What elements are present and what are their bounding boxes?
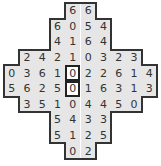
grid-cell[interactable]: 4 (96, 97, 111, 113)
grid-cell[interactable]: 1 (126, 81, 141, 97)
grid-outline (34, 49, 51, 51)
grid-cell[interactable]: 5 (50, 112, 65, 128)
grid-cell[interactable]: 5 (4, 81, 19, 97)
grid-cell[interactable]: 1 (126, 65, 141, 81)
grid-cell[interactable]: 3 (126, 50, 141, 66)
grid-cell[interactable]: 1 (50, 65, 65, 81)
grid-cell[interactable]: 0 (65, 19, 80, 35)
grid-cell[interactable]: 2 (19, 50, 34, 66)
grid-outline (49, 127, 51, 145)
grid-cell[interactable]: 3 (19, 97, 34, 113)
grid-cell[interactable]: 6 (81, 34, 96, 50)
grid-cell[interactable]: 4 (50, 34, 65, 50)
grid-cell[interactable]: 2 (111, 50, 126, 66)
grid-outline (64, 142, 66, 160)
grid-cell[interactable]: 6 (111, 65, 126, 81)
grid-outline (3, 80, 5, 98)
domino-puzzle-board: 6660544164242103230361022614562501631335… (0, 0, 161, 166)
grid-cell[interactable]: 1 (65, 50, 80, 66)
grid-outline (156, 80, 158, 98)
grid-cell[interactable]: 2 (50, 50, 65, 66)
grid-outline (18, 96, 20, 114)
grid-cell[interactable]: 3 (96, 50, 111, 66)
grid-cell[interactable]: 5 (96, 128, 111, 144)
grid-cell[interactable]: 4 (142, 65, 157, 81)
grid-cell[interactable]: 0 (81, 50, 96, 66)
grid-cell[interactable]: 0 (65, 97, 80, 113)
grid-cell[interactable]: 5 (50, 81, 65, 97)
grid-cell[interactable]: 6 (96, 81, 111, 97)
grid-cell[interactable]: 4 (96, 34, 111, 50)
grid-cell[interactable]: 6 (81, 3, 96, 19)
grid-cell[interactable]: 5 (111, 97, 126, 113)
grid-cell[interactable]: 3 (111, 81, 126, 97)
grid-cell[interactable]: 6 (65, 3, 80, 19)
grid-cell[interactable]: 5 (50, 128, 65, 144)
grid-outline (95, 142, 97, 160)
grid-outline (49, 18, 66, 20)
grid-cell[interactable]: 4 (81, 97, 96, 113)
grid-cell[interactable]: 5 (81, 19, 96, 35)
grid-cell[interactable]: 1 (65, 128, 80, 144)
grid-cell[interactable]: 6 (50, 19, 65, 35)
grid-cell[interactable]: 3 (142, 81, 157, 97)
grid-cell[interactable]: 6 (19, 81, 34, 97)
grid-cell[interactable]: 0 (4, 65, 19, 81)
highlighted-cell[interactable]: 0 (65, 81, 80, 97)
grid-cell[interactable]: 1 (50, 97, 65, 113)
grid-cell[interactable]: 1 (65, 34, 80, 50)
grid-cell[interactable]: 2 (81, 65, 96, 81)
grid-cell[interactable]: 4 (65, 112, 80, 128)
grid-cell[interactable]: 3 (96, 112, 111, 128)
grid-cell[interactable]: 4 (35, 50, 50, 66)
grid-outline (141, 96, 143, 114)
grid-cell[interactable]: 3 (81, 112, 96, 128)
grid-cell[interactable]: 6 (35, 65, 50, 81)
grid-cell[interactable]: 4 (96, 19, 111, 35)
highlighted-cell[interactable]: 0 (65, 65, 80, 81)
grid-outline (3, 64, 20, 66)
grid-cell[interactable]: 2 (96, 65, 111, 81)
grid-cell[interactable]: 2 (81, 143, 96, 159)
grid-outline (110, 127, 112, 145)
grid-cell[interactable]: 2 (81, 128, 96, 144)
grid-cell[interactable]: 0 (126, 97, 141, 113)
grid-cell[interactable]: 1 (81, 81, 96, 97)
grid-cell[interactable]: 2 (35, 81, 50, 97)
grid-cell[interactable]: 0 (65, 143, 80, 159)
grid-cell[interactable]: 3 (19, 65, 34, 81)
grid-cell[interactable]: 5 (35, 97, 50, 113)
